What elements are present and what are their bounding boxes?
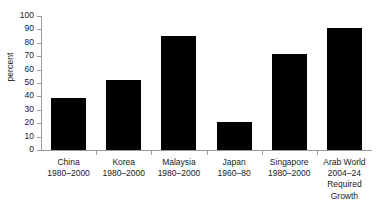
y-axis-title: percent bbox=[5, 37, 15, 97]
x-tick-mark bbox=[317, 151, 318, 155]
y-tick-mark bbox=[37, 150, 41, 151]
y-tick-label: 80 bbox=[25, 37, 34, 47]
x-tick-mark bbox=[262, 151, 263, 155]
x-tick-mark bbox=[151, 151, 152, 155]
y-tick-label: 30 bbox=[25, 104, 34, 114]
bar bbox=[51, 98, 86, 150]
y-tick-label: 20 bbox=[25, 117, 34, 127]
x-axis-label: Arab World 2004–24 Required Growth bbox=[317, 157, 372, 202]
y-tick-label: 10 bbox=[25, 131, 34, 141]
x-tick-mark bbox=[96, 151, 97, 155]
x-axis-label: China 1980–2000 bbox=[41, 157, 96, 179]
y-tick-label: 100 bbox=[20, 10, 34, 20]
x-axis-label: Japan 1960–80 bbox=[207, 157, 262, 179]
y-tick-label: 0 bbox=[29, 144, 34, 154]
bar bbox=[327, 28, 362, 150]
plot-area bbox=[41, 16, 372, 150]
bar bbox=[161, 36, 196, 150]
x-axis-label: Korea 1980–2000 bbox=[96, 157, 151, 179]
bar-chart: percent 0102030405060708090100 China 198… bbox=[0, 0, 380, 221]
y-tick-label: 50 bbox=[25, 77, 34, 87]
y-tick-label: 90 bbox=[25, 23, 34, 33]
bar bbox=[106, 80, 141, 150]
x-axis-label: Singapore 1980–2000 bbox=[262, 157, 317, 179]
y-tick-label: 60 bbox=[25, 64, 34, 74]
bar bbox=[272, 54, 307, 150]
x-axis-label: Malaysia 1980–2000 bbox=[151, 157, 206, 179]
x-tick-mark bbox=[207, 151, 208, 155]
y-tick-label: 40 bbox=[25, 90, 34, 100]
bar bbox=[217, 122, 252, 150]
y-tick-label: 70 bbox=[25, 50, 34, 60]
